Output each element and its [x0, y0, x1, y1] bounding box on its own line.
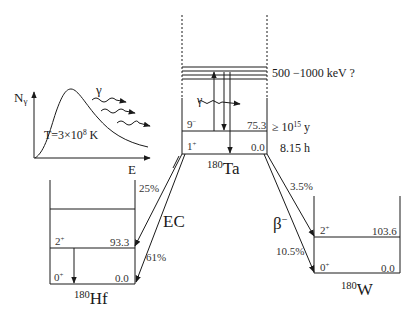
hf-0plus-energy: 0.0 [115, 273, 129, 284]
w-2plus-spin: 2+ [320, 225, 329, 236]
hf-2plus-energy: 93.3 [110, 237, 129, 248]
inset-gamma-label: γ [96, 83, 102, 96]
band-energy-label: 500 −1000 keV ? [272, 67, 355, 79]
ta-1plus-halflife: 8.15 h [280, 142, 310, 154]
gamma-wave-icon [117, 121, 139, 125]
inset-spectrum-plot [34, 89, 150, 158]
ta-9minus-halflife: ≥ 1015 y [272, 121, 310, 133]
hf180-nuclide-label: 180Hf [74, 290, 108, 307]
ec-decay-label: EC [163, 213, 185, 230]
ec-branch-25: 25% [139, 183, 159, 194]
hf-0plus-spin: 0+ [54, 272, 63, 283]
beta-branch-10-5: 10.5% [276, 246, 304, 257]
w180-nuclide-label: 180W [341, 281, 373, 298]
ta-9minus-energy: 75.3 [247, 120, 266, 131]
beta-branch-3-5: 3.5% [290, 181, 313, 192]
inset-spectrum-curve [35, 89, 148, 158]
gamma-wave-icon [101, 109, 125, 113]
beta-decay-label: β− [273, 215, 288, 232]
inset-x-axis-label: E [128, 163, 136, 176]
temperature-label: T=3×108 K [44, 129, 98, 141]
ta180-level-scheme [182, 15, 267, 154]
ec-branch-61: 61% [146, 252, 166, 263]
inset-y-axis-label: Nγ [14, 91, 27, 104]
gamma-wave-icon [92, 98, 116, 102]
w-0plus-spin: 0+ [320, 262, 329, 273]
ta-9minus-spin: 9− [187, 119, 196, 130]
ta180-nuclide-label: 180Ta [207, 160, 240, 177]
w-0plus-energy: 0.0 [381, 263, 395, 274]
hf180-level-scheme [50, 180, 135, 284]
w-2plus-energy: 103.6 [372, 226, 397, 237]
hf-2plus-spin: 2+ [55, 236, 64, 247]
ta-1plus-spin: 1+ [187, 141, 196, 152]
ta-gamma-label: γ [197, 94, 202, 106]
ta-1plus-energy: 0.0 [251, 142, 265, 153]
